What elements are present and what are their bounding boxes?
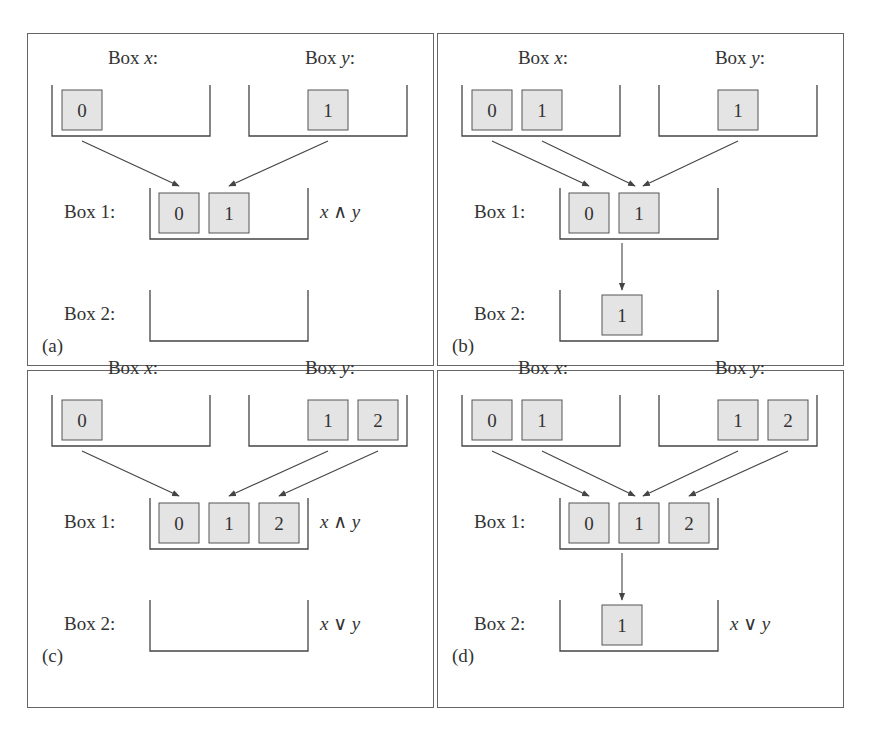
panel-d: Box x:Box y:0112Box 1:012Box 2:1x ∨ y(d) [452,357,817,667]
box-1-annotation: x ∧ y [319,201,361,222]
value-item: 1 [308,400,348,440]
box-1-label: Box 1: [474,511,525,532]
arrow [492,451,589,496]
value-item: 0 [62,400,102,440]
arrow [689,451,788,496]
box-y-label: Box y: [305,47,355,68]
item-value: 1 [537,100,547,121]
value-item: 1 [209,503,249,543]
item-value: 0 [487,410,497,431]
box-2-annotation: x ∨ y [729,613,771,634]
item-value: 0 [77,100,87,121]
box-1-label: Box 1: [64,201,115,222]
value-item: 1 [619,503,659,543]
panel-tag: (a) [42,335,63,357]
figure: Box x:Box y:01Box 1:01x ∧ yBox 2:(a)Box … [0,0,874,731]
item-value: 2 [274,513,284,534]
item-value: 0 [584,513,594,534]
item-value: 0 [487,100,497,121]
box-2-container [150,290,308,341]
item-value: 0 [174,513,184,534]
value-item: 0 [472,90,512,130]
value-item: 2 [768,400,808,440]
value-item: 2 [259,503,299,543]
value-item: 0 [159,193,199,233]
item-value: 0 [584,203,594,224]
arrow [542,141,635,186]
panel-tag: (c) [42,645,63,667]
item-value: 1 [224,203,234,224]
box-x-label: Box x: [108,47,158,68]
value-item: 0 [472,400,512,440]
item-value: 1 [617,615,627,636]
arrow [542,451,635,496]
arrow [82,451,179,496]
value-item: 1 [522,400,562,440]
box-y-label: Box y: [715,47,765,68]
item-value: 0 [77,410,87,431]
box-x-label: Box x: [108,357,158,378]
item-value: 1 [617,305,627,326]
box-2-label: Box 2: [64,303,115,324]
box-x-label: Box x: [518,47,568,68]
item-value: 1 [634,203,644,224]
box-2-label: Box 2: [64,613,115,634]
value-item: 2 [358,400,398,440]
value-item: 1 [209,193,249,233]
box-1-annotation: x ∧ y [319,511,361,532]
value-item: 1 [718,90,758,130]
panel-b: Box x:Box y:011Box 1:01Box 2:1(b) [452,47,817,357]
value-item: 2 [669,503,709,543]
value-item: 0 [62,90,102,130]
panel-c: Box x:Box y:012Box 1:012x ∧ yBox 2:x ∨ y… [42,357,407,667]
value-item: 0 [569,503,609,543]
value-item: 1 [522,90,562,130]
arrow [229,141,328,186]
arrow [279,451,378,496]
item-value: 1 [323,410,333,431]
item-value: 1 [537,410,547,431]
value-item: 1 [619,193,659,233]
item-value: 1 [224,513,234,534]
value-item: 0 [569,193,609,233]
box-2-label: Box 2: [474,303,525,324]
item-value: 2 [783,410,793,431]
item-value: 1 [634,513,644,534]
box-2-label: Box 2: [474,613,525,634]
box-y-label: Box y: [305,357,355,378]
box-1-label: Box 1: [64,511,115,532]
item-value: 2 [373,410,383,431]
box-2-annotation: x ∨ y [319,613,361,634]
box-2-container [150,600,308,651]
panel-tag: (d) [452,645,474,667]
box-x-label: Box x: [518,357,568,378]
arrow [492,141,589,186]
panel-a: Box x:Box y:01Box 1:01x ∧ yBox 2:(a) [42,47,407,357]
value-item: 1 [602,605,642,645]
arrow [229,451,328,496]
box-y-label: Box y: [715,357,765,378]
box-1-label: Box 1: [474,201,525,222]
arrow [643,451,738,496]
item-value: 0 [174,203,184,224]
item-value: 1 [733,100,743,121]
value-item: 0 [159,503,199,543]
arrow [82,141,179,186]
item-value: 1 [733,410,743,431]
value-item: 1 [602,295,642,335]
arrow [643,141,738,186]
value-item: 1 [308,90,348,130]
item-value: 1 [323,100,333,121]
item-value: 2 [684,513,694,534]
panel-tag: (b) [452,335,474,357]
value-item: 1 [718,400,758,440]
